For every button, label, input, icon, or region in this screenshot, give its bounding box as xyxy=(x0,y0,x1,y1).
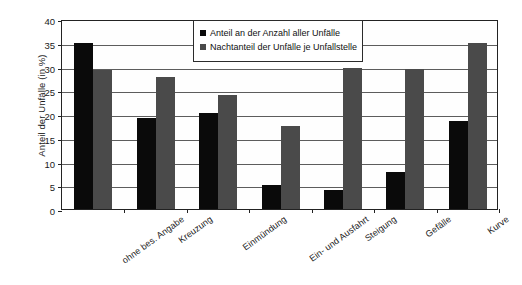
y-axis-tick-label: 40 xyxy=(44,16,55,27)
x-axis-tick-label: Kurve xyxy=(485,214,510,236)
x-axis-tick xyxy=(374,209,375,213)
x-axis-tick xyxy=(249,209,250,213)
bar xyxy=(137,118,156,209)
bar xyxy=(386,172,405,209)
bar xyxy=(156,77,175,209)
y-axis-tick xyxy=(58,21,62,22)
x-axis-tick-label: ohne bes. Angabe xyxy=(120,214,186,266)
y-axis-tick-label: 25 xyxy=(44,87,55,98)
y-axis-tick xyxy=(58,211,62,212)
legend-entry: Nachtanteil der Unfälle je Unfallstelle xyxy=(200,42,356,52)
y-axis-tick-label: 35 xyxy=(44,39,55,50)
legend-label: Anteil an der Anzahl aller Unfälle xyxy=(210,28,340,38)
y-axis-tick-label: 15 xyxy=(44,134,55,145)
gridline xyxy=(62,164,497,165)
y-axis-tick xyxy=(58,187,62,188)
gridline xyxy=(62,69,497,70)
legend-swatch-icon xyxy=(200,44,206,50)
y-axis-tick xyxy=(58,140,62,141)
bar xyxy=(281,126,300,209)
y-axis-tick xyxy=(58,116,62,117)
chart-legend: Anteil an der Anzahl aller UnfälleNachta… xyxy=(193,20,363,62)
bar xyxy=(343,68,362,209)
legend-swatch-icon xyxy=(200,30,206,36)
bar xyxy=(218,95,237,209)
y-axis-tick-label: 5 xyxy=(50,182,55,193)
x-axis-tick xyxy=(187,209,188,213)
y-axis-tick-label: 10 xyxy=(44,158,55,169)
legend-label: Nachtanteil der Unfälle je Unfallstelle xyxy=(210,42,357,52)
y-axis-tick xyxy=(58,164,62,165)
gridline xyxy=(62,140,497,141)
x-axis-tick xyxy=(437,209,438,213)
gridline xyxy=(62,116,497,117)
bar xyxy=(324,190,343,209)
y-axis-tick xyxy=(58,92,62,93)
gridline xyxy=(62,92,497,93)
x-axis-tick xyxy=(312,209,313,213)
x-axis-tick-label: Gefälle xyxy=(424,214,454,239)
bar xyxy=(405,69,424,209)
x-axis-tick-label: Ein- und Ausfahrt xyxy=(307,214,370,264)
bar xyxy=(449,121,468,209)
x-axis-tick xyxy=(124,209,125,213)
x-axis-tick xyxy=(499,209,500,213)
y-axis-tick xyxy=(58,45,62,46)
bar xyxy=(93,70,112,209)
bar xyxy=(262,185,281,209)
y-axis-tick xyxy=(58,69,62,70)
y-axis-tick-label: 20 xyxy=(44,111,55,122)
x-axis-tick-label: Einmündung xyxy=(241,214,289,252)
bar xyxy=(468,43,487,209)
legend-entry: Anteil an der Anzahl aller Unfälle xyxy=(200,28,356,38)
y-axis-tick-label: 30 xyxy=(44,63,55,74)
bar xyxy=(74,43,93,209)
y-axis-tick-label: 0 xyxy=(50,206,55,217)
bar xyxy=(199,113,218,209)
bar-chart: Anteil der Unfälle (in %) 05101520253035… xyxy=(0,0,522,285)
